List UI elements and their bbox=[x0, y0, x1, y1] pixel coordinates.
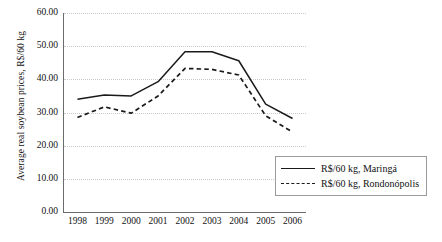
y-tick-label: 40.00 bbox=[8, 73, 58, 83]
legend-label-rondonopolis: R$/60 kg, Rondonópolis bbox=[321, 178, 419, 189]
y-tick-label: 60.00 bbox=[8, 7, 58, 17]
legend-dashed-line-icon bbox=[281, 179, 315, 189]
series-line bbox=[77, 68, 292, 132]
x-tick-label: 2006 bbox=[276, 216, 310, 226]
legend-solid-line-icon bbox=[281, 164, 315, 174]
x-axis-line bbox=[63, 212, 306, 213]
plot-area bbox=[64, 13, 306, 212]
series-lines bbox=[64, 13, 306, 212]
legend-item-rondonopolis[interactable]: R$/60 kg, Rondonópolis bbox=[281, 176, 419, 191]
y-tick-label: 10.00 bbox=[8, 173, 58, 183]
y-tick-label: 50.00 bbox=[8, 40, 58, 50]
y-tick-label: 0.00 bbox=[8, 206, 58, 216]
legend-item-maringa[interactable]: R$/60 kg, Maringá bbox=[281, 161, 419, 176]
chart-legend: R$/60 kg, Maringá R$/60 kg, Rondonópolis bbox=[275, 156, 427, 196]
legend-label-maringa: R$/60 kg, Maringá bbox=[321, 163, 397, 174]
y-tick-label: 20.00 bbox=[8, 140, 58, 150]
soybean-price-line-chart: Average real soybean prices, R$/60 kg 60… bbox=[0, 0, 442, 242]
y-tick-label: 30.00 bbox=[8, 107, 58, 117]
